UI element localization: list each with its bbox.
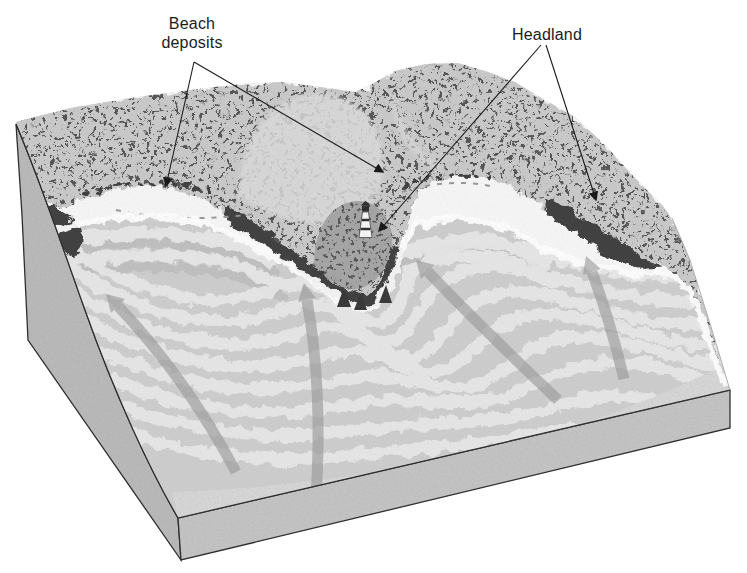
headland-label: Headland <box>500 25 594 44</box>
coastal-block-diagram: Beach deposits Headland <box>0 0 747 573</box>
block-diagram-scene <box>0 0 747 573</box>
beach-deposits-label: Beach deposits <box>157 14 227 52</box>
